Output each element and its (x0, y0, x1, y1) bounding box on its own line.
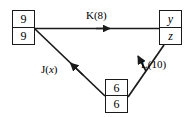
node-right-cell-bottom: z (160, 28, 181, 45)
edge-label-j-suffix: ) (54, 63, 58, 75)
node-right-cell-top: y (160, 11, 181, 28)
node-left[interactable]: 9 9 (12, 10, 35, 45)
node-bottom-cell-bottom: 6 (106, 96, 127, 112)
edge-j-arrowhead (71, 63, 84, 75)
edge-label-j-prefix: J( (41, 63, 49, 75)
edge-label-l: L(10) (141, 59, 166, 70)
node-right[interactable]: y z (159, 10, 182, 45)
node-bottom[interactable]: 6 6 (105, 79, 128, 113)
node-left-cell-bottom: 9 (13, 28, 34, 45)
node-bottom-cell-top: 6 (106, 80, 127, 96)
graph-diagram: 9 9 y z 6 6 K(8) J(x) L(10) (0, 0, 190, 117)
edge-label-k: K(8) (86, 10, 107, 21)
node-left-cell-top: 9 (13, 11, 34, 28)
edge-label-j: J(x) (41, 64, 58, 75)
